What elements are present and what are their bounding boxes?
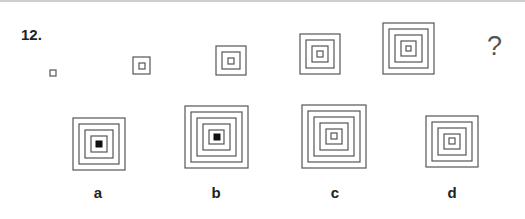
concentric-squares-icon (299, 33, 342, 76)
concentric-squares-icon (49, 69, 57, 77)
sequence-figure-2 (132, 56, 152, 76)
top-border (0, 0, 525, 2)
missing-figure-question-mark: ? (487, 31, 502, 62)
option-d-label[interactable]: d (442, 184, 462, 201)
option-b-figure[interactable] (184, 105, 250, 170)
option-a-figure[interactable] (72, 117, 127, 172)
concentric-squares-icon (215, 45, 247, 76)
concentric-squares-filled-center-icon (184, 105, 250, 170)
option-d-figure[interactable] (425, 115, 480, 169)
option-c-figure[interactable] (301, 104, 368, 170)
sequence-figure-3 (215, 45, 247, 76)
concentric-squares-icon (382, 22, 436, 76)
concentric-squares-icon (425, 115, 480, 169)
option-b-label[interactable]: b (206, 184, 226, 201)
sequence-figure-1 (49, 69, 57, 77)
concentric-squares-icon (301, 104, 368, 170)
sequence-figure-5 (382, 22, 436, 76)
option-c-label[interactable]: c (325, 184, 345, 201)
concentric-squares-filled-center-icon (72, 117, 127, 172)
concentric-squares-icon (132, 56, 152, 76)
option-a-label[interactable]: a (88, 184, 108, 201)
sequence-figure-4 (299, 33, 342, 76)
question-number: 12. (21, 26, 42, 43)
